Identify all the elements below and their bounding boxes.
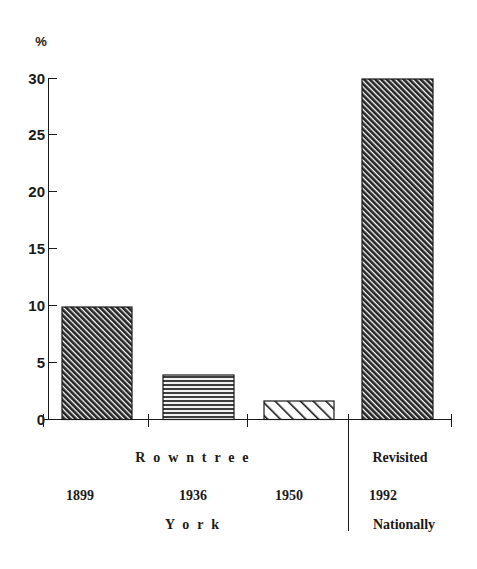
y-tick-label-20: 20 bbox=[28, 183, 45, 200]
y-tick-label-30: 30 bbox=[28, 70, 45, 87]
group-label-nationally: Nationally bbox=[373, 517, 435, 532]
bar-1992 bbox=[362, 79, 433, 420]
x-label-1950: 1950 bbox=[275, 488, 303, 503]
y-axis-unit-label: % bbox=[35, 34, 47, 49]
chart-container: % 30 25 20 15 10 5 0 bbox=[0, 0, 477, 569]
y-tick-label-25: 25 bbox=[28, 126, 45, 143]
x-label-1992: 1992 bbox=[369, 488, 397, 503]
y-tick-label-5: 5 bbox=[37, 354, 45, 371]
group-label-revisited: Revisited bbox=[372, 450, 427, 465]
group-label-york: Y o r k bbox=[165, 517, 221, 532]
bar-chart-svg: % 30 25 20 15 10 5 0 bbox=[0, 0, 477, 569]
group-label-rowntree: R o w n t r e e bbox=[135, 450, 251, 465]
y-tick-label-10: 10 bbox=[28, 297, 45, 314]
bar-1950 bbox=[264, 401, 334, 420]
y-tick-label-15: 15 bbox=[28, 240, 45, 257]
x-label-1936: 1936 bbox=[179, 488, 207, 503]
bar-1899 bbox=[62, 307, 132, 420]
x-label-1899: 1899 bbox=[66, 488, 94, 503]
bar-1936 bbox=[163, 375, 234, 420]
